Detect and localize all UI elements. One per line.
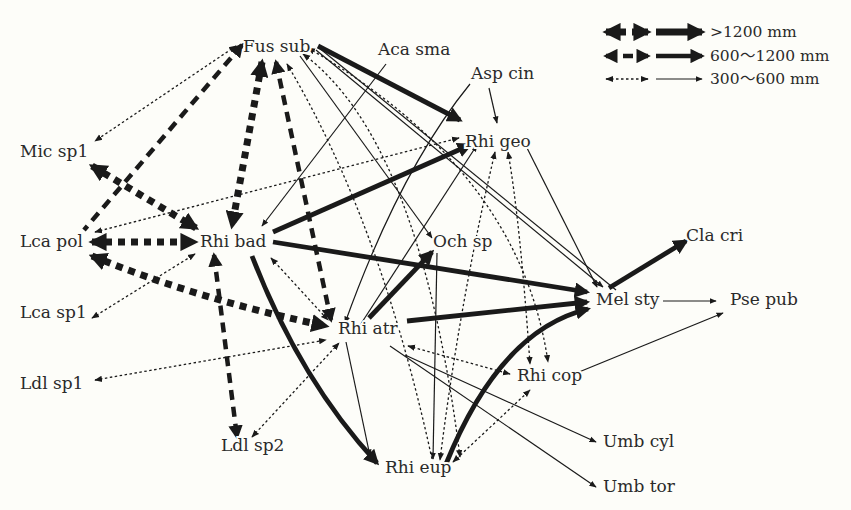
edge-thick-dash	[92, 256, 326, 326]
node-rhi_geo: Rhi geo	[465, 131, 531, 151]
edge-thin-dash	[508, 152, 530, 364]
edge-thin-solid	[489, 88, 497, 123]
edge-thick-solid	[273, 145, 470, 232]
edge-thin-solid	[579, 313, 723, 372]
node-rhi_eup: Rhi eup	[385, 457, 452, 477]
node-lca_pol: Lca pol	[20, 231, 83, 251]
node-cla_cri: Cla cri	[686, 225, 744, 245]
node-mel_sty: Mel sty	[596, 289, 660, 309]
legend-label-medium: 600〜1200 mm	[710, 47, 830, 65]
node-asp_cin: Asp cin	[470, 63, 534, 83]
legend: >1200 mm600〜1200 mm300〜600 mm	[606, 23, 830, 88]
edge-group	[84, 45, 723, 487]
edge-medium-dash	[276, 62, 331, 320]
node-pse_pub: Pse pub	[730, 289, 798, 309]
node-aca_sma: Aca sma	[377, 39, 450, 59]
node-rhi_atr: Rhi atr	[338, 318, 399, 338]
edge-thin-solid	[433, 253, 437, 459]
edge-medium-dash	[84, 45, 242, 230]
edge-thin-dash	[408, 346, 510, 374]
edge-thick-solid	[609, 241, 686, 288]
diagram-canvas: Fus subAca smaAsp cinMic sp1Rhi geoLca p…	[0, 0, 851, 510]
edge-thin-solid	[318, 47, 616, 290]
node-rhi_bad: Rhi bad	[200, 231, 267, 251]
edge-thin-dash	[95, 46, 236, 141]
node-ldl_sp2: Ldl sp2	[221, 435, 284, 455]
node-umb_tor: Umb tor	[603, 476, 676, 496]
node-ldl_sp1: Ldl sp1	[20, 373, 83, 393]
node-fus_sub: Fus sub	[243, 36, 311, 56]
legend-label-thin: 300〜600 mm	[710, 70, 820, 88]
edge-thin-dash	[252, 343, 339, 437]
node-och_sp: Och sp	[433, 231, 493, 251]
node-mic_sp1: Mic sp1	[20, 141, 88, 161]
edge-thin-solid	[316, 50, 603, 287]
food-web-diagram: Fus subAca smaAsp cinMic sp1Rhi geoLca p…	[0, 0, 851, 510]
legend-label-thick: >1200 mm	[710, 23, 797, 41]
node-umb_cyl: Umb cyl	[603, 431, 674, 451]
edge-medium-dash	[214, 255, 237, 437]
node-lca_sp1: Lca sp1	[20, 302, 87, 322]
node-rhi_cop: Rhi cop	[517, 365, 582, 385]
edge-thick-solid	[446, 309, 588, 464]
edge-thin-solid	[526, 146, 597, 287]
edge-thick-dash	[232, 62, 262, 226]
